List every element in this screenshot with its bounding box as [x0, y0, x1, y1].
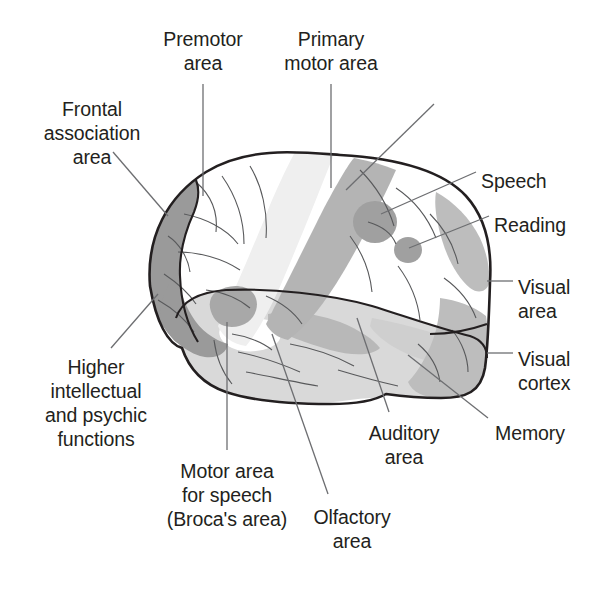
- label-primary-motor-area: Primary motor area: [284, 27, 377, 75]
- label-premotor-area: Premotor area: [163, 27, 242, 75]
- label-visual-area: Visual area: [518, 275, 570, 323]
- brain-illustration: [0, 0, 605, 589]
- label-motor-area-speech: Motor area for speech (Broca's area): [167, 459, 287, 531]
- speech-region: [353, 201, 397, 243]
- label-higher-intellectual: Higher intellectual and psychic function…: [45, 355, 147, 451]
- label-memory: Memory: [495, 421, 565, 445]
- reading-region: [394, 237, 422, 263]
- label-reading: Reading: [494, 213, 566, 237]
- label-speech: Speech: [481, 169, 547, 193]
- label-frontal-association: Frontal association area: [44, 97, 140, 169]
- label-visual-cortex: Visual cortex: [518, 347, 571, 395]
- label-auditory-area: Auditory area: [369, 421, 440, 469]
- brain-functional-areas-diagram: Premotor area Primary motor area Frontal…: [0, 0, 605, 589]
- label-olfactory-area: Olfactory area: [313, 505, 390, 553]
- leader-higher-intellectual: [111, 294, 158, 348]
